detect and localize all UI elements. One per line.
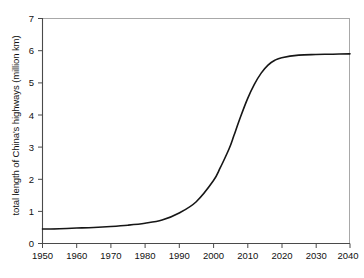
- y-tick-label-6: 6: [29, 45, 34, 56]
- x-tick-label-2030: 2030: [306, 250, 327, 261]
- y-tick-label-3: 3: [29, 142, 34, 153]
- y-tick-label-4: 4: [29, 110, 34, 121]
- y-tick-label-7: 7: [29, 13, 34, 24]
- y-tick-label-5: 5: [29, 77, 34, 88]
- x-tick-label-2020: 2020: [271, 250, 292, 261]
- x-tick-label-1960: 1960: [66, 250, 87, 261]
- x-tick-label-2000: 2000: [203, 250, 224, 261]
- x-axis-ticks: [43, 244, 351, 249]
- x-tick-label-2010: 2010: [237, 250, 258, 261]
- y-tick-label-0: 0: [29, 238, 34, 249]
- y-tick-label-2: 2: [29, 174, 34, 185]
- y-axis-ticks: [38, 19, 43, 244]
- plot-frame: [43, 19, 350, 244]
- y-tick-label-1: 1: [29, 206, 34, 217]
- x-tick-label-2040: 2040: [337, 250, 358, 261]
- chart-figure: total length of China's highways (millio…: [0, 0, 364, 278]
- x-tick-label-1980: 1980: [135, 250, 156, 261]
- x-tick-label-1950: 1950: [32, 250, 53, 261]
- x-tick-label-1990: 1990: [169, 250, 190, 261]
- x-tick-label-1970: 1970: [100, 250, 121, 261]
- highway-length-curve: [43, 54, 351, 229]
- line-chart-plot: 0 1 2 3 4 5 6 7 1950 1960 1970 1980: [0, 0, 364, 278]
- y-axis-tick-labels: 0 1 2 3 4 5 6 7: [29, 13, 34, 249]
- x-axis-tick-labels: 1950 1960 1970 1980 1990 2000 2010 2020 …: [32, 250, 359, 261]
